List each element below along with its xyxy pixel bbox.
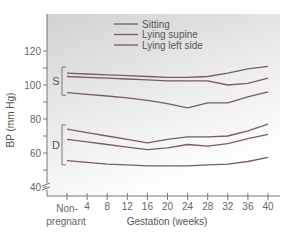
- systolic-group-label: S: [52, 75, 59, 87]
- x-tick-label: 28: [202, 201, 214, 212]
- x-tick-label: 12: [122, 201, 134, 212]
- x-tick-label: 36: [242, 201, 254, 212]
- bp-gestation-chart: 406080100120 Non-pregnant481216202428323…: [0, 0, 296, 238]
- y-tick-label: 100: [24, 80, 41, 91]
- legend-label: Lying left side: [142, 40, 203, 51]
- x-tick-label: 24: [182, 201, 194, 212]
- x-tick-label: 8: [104, 201, 110, 212]
- x-tick-label: pregnant: [46, 216, 86, 227]
- x-axis-title: Gestation (weeks): [127, 216, 208, 227]
- y-tick-label: 40: [30, 182, 42, 193]
- y-tick-label: 60: [30, 148, 42, 159]
- x-tick-label: 40: [262, 201, 274, 212]
- legend-label: Sitting: [142, 19, 170, 30]
- y-tick-label: 120: [24, 46, 41, 57]
- y-axis: 406080100120: [24, 14, 50, 196]
- y-tick-label: 80: [30, 114, 42, 125]
- x-tick-label: 16: [142, 201, 154, 212]
- x-tick-label: 20: [162, 201, 174, 212]
- x-tick-label: 4: [84, 201, 90, 212]
- y-axis-title: BP (mm Hg): [5, 93, 16, 148]
- x-tick-label: 32: [222, 201, 234, 212]
- legend-label: Lying supine: [142, 29, 198, 40]
- diastolic-group-label: D: [52, 139, 60, 151]
- x-tick-label: Non-: [56, 203, 78, 214]
